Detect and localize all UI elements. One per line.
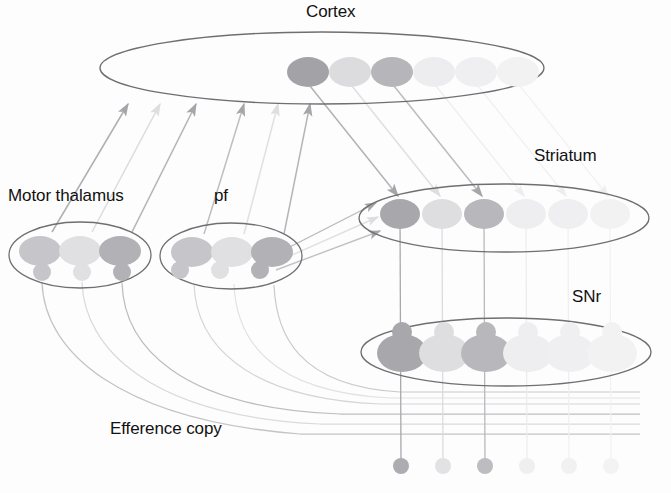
striatum-cell-2 (422, 199, 462, 229)
cortex-cell-2 (329, 57, 371, 87)
striatum-cells (380, 199, 630, 229)
mt-cell-1 (19, 236, 61, 266)
mt-cell-3 (99, 236, 141, 266)
cortex-cell-6 (497, 57, 539, 87)
structure-motor-thalamus[interactable] (9, 222, 151, 288)
cortex-cell-3 (371, 57, 413, 87)
thalamus-to-cortex-arrows (52, 104, 310, 234)
label-efference-copy: Efference copy (110, 419, 222, 438)
pf-bouton-3 (251, 261, 269, 279)
striatum-cell-1 (380, 199, 420, 229)
diagram-canvas: Cortex Striatum Motor thalamus pf SNr Ef… (0, 0, 671, 493)
label-pf: pf (214, 186, 228, 205)
striatum-cell-5 (548, 199, 588, 229)
label-striatum: Striatum (534, 146, 597, 165)
output-terminal-3 (477, 458, 493, 474)
structure-cortex[interactable] (100, 32, 544, 104)
cortex-to-striatum-arrows (310, 86, 608, 196)
pf-cells (171, 237, 293, 279)
output-terminal-1 (393, 458, 409, 474)
mt-bouton-1 (33, 263, 51, 281)
output-terminals (393, 458, 619, 474)
output-terminal-4 (519, 458, 535, 474)
cortex-cell-5 (455, 57, 497, 87)
striatum-cell-3 (464, 199, 504, 229)
snr-cell-6 (587, 334, 637, 372)
label-cortex: Cortex (306, 2, 355, 21)
structure-snr[interactable] (361, 318, 651, 386)
snr-cells (377, 322, 637, 372)
output-terminal-5 (561, 458, 577, 474)
mt-cell-2 (59, 236, 101, 266)
motor-thalamus-cells (19, 236, 141, 281)
structure-pf[interactable] (160, 223, 302, 289)
striatum-cell-4 (506, 199, 546, 229)
cortex-cell-4 (413, 57, 455, 87)
circuit-diagram-svg (0, 0, 671, 493)
output-terminal-2 (435, 458, 451, 474)
pf-bouton-2 (211, 261, 229, 279)
pf-bouton-1 (171, 261, 189, 279)
output-terminal-6 (603, 458, 619, 474)
striatum-cell-6 (590, 199, 630, 229)
cortex-cell-1 (287, 57, 329, 87)
label-snr: SNr (572, 287, 601, 306)
mt-bouton-3 (113, 263, 131, 281)
label-motor-thalamus: Motor thalamus (8, 186, 124, 205)
mt-bouton-2 (73, 263, 91, 281)
structure-striatum[interactable] (359, 184, 649, 252)
cortex-cells (287, 57, 539, 87)
